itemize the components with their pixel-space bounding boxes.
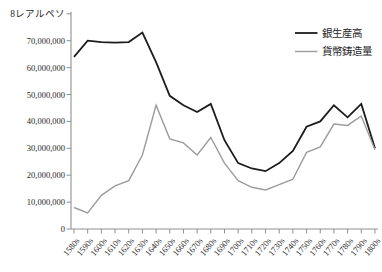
y-tick-label: 10,000,000 xyxy=(27,197,65,207)
y-tick-label: 50,000,000 xyxy=(27,90,65,100)
line-chart: 010,000,00020,000,00030,000,00040,000,00… xyxy=(0,0,382,272)
y-axis-unit-label: 8レアルペソ xyxy=(10,9,65,19)
legend-label-coin-minting: 貨幣鋳造量 xyxy=(322,45,373,57)
y-tick-label: 60,000,000 xyxy=(27,63,65,73)
y-tick-label: 30,000,000 xyxy=(27,143,65,153)
chart-figure: 010,000,00020,000,00030,000,00040,000,00… xyxy=(0,0,382,272)
legend-label-silver-production: 銀生産高 xyxy=(322,27,362,39)
series-line-coin-minting xyxy=(74,105,375,213)
y-tick-label: 20,000,000 xyxy=(27,170,65,180)
y-tick-label: 40,000,000 xyxy=(27,116,65,126)
y-tick-label: 0 xyxy=(61,224,65,234)
y-tick-label: 70,000,000 xyxy=(27,36,65,46)
